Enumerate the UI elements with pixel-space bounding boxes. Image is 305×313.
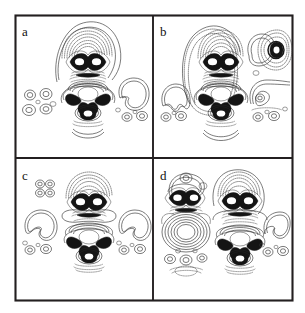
panel-d-label: d	[160, 168, 167, 183]
molecular-orbital-contour-figure: a	[0, 0, 305, 313]
panel-c-label: c	[22, 168, 28, 183]
panel-b-label: b	[160, 24, 167, 39]
figure-canvas: a	[0, 0, 305, 313]
panel-a-label: a	[22, 24, 28, 39]
